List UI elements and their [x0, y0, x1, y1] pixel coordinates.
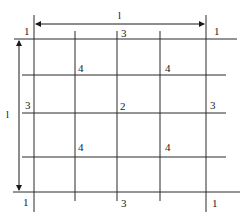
dimension-top: l	[36, 9, 204, 24]
label-corner-top-right: 1	[214, 25, 220, 37]
label-edge-left-mid: 3	[25, 99, 31, 111]
label-inner-bottom-left: 4	[78, 141, 84, 153]
left-dimension-label: l	[6, 108, 9, 120]
label-center: 2	[120, 100, 126, 112]
label-edge-bottom-mid: 3	[121, 197, 127, 209]
label-corner-bottom-right: 1	[212, 197, 218, 209]
label-inner-bottom-right: 4	[165, 141, 171, 153]
label-corner-top-left: 1	[24, 25, 30, 37]
label-edge-right-mid: 3	[210, 99, 216, 111]
node-labels: 1 3 1 4 4 3 2 3 4 4 1 3 1	[23, 25, 220, 209]
grid-diagram: l l 1 3 1 4 4 3 2 3 4 4 1 3 1	[0, 0, 247, 217]
dimension-left: l	[6, 41, 19, 190]
top-dimension-label: l	[118, 9, 121, 21]
label-edge-top-mid: 3	[121, 27, 127, 39]
label-inner-top-right: 4	[165, 62, 171, 74]
label-corner-bottom-left: 1	[23, 196, 29, 208]
label-inner-top-left: 4	[78, 62, 84, 74]
